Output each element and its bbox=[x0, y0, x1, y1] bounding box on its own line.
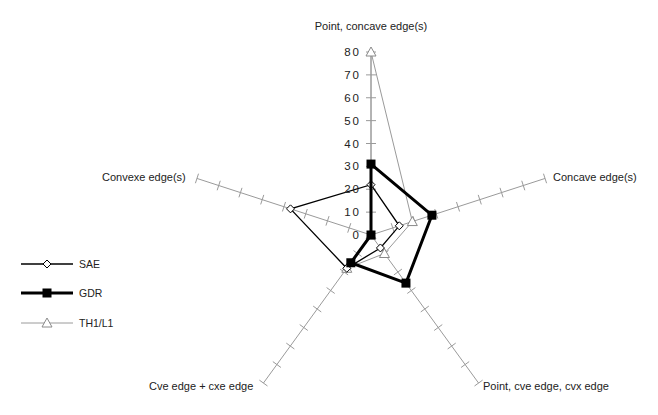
radial-tick-label: 0 bbox=[353, 229, 361, 241]
square-marker-icon bbox=[367, 231, 376, 240]
square-marker-icon bbox=[427, 211, 436, 220]
legend: SAEGDRTH1/L1 bbox=[21, 258, 114, 329]
radar-chart: 01020304050607080 Point, concave edge(s)… bbox=[0, 0, 658, 415]
legend-label: TH1/L1 bbox=[79, 317, 114, 329]
axis-tick bbox=[421, 306, 429, 312]
square-marker-icon bbox=[346, 258, 355, 267]
square-marker-icon bbox=[43, 289, 52, 298]
axis-label: Point, concave edge(s) bbox=[315, 20, 428, 32]
radial-tick-label: 20 bbox=[344, 183, 361, 195]
legend-item: GDR bbox=[21, 287, 103, 299]
axis-label: Cve edge + cxe edge bbox=[149, 380, 253, 392]
triangle-marker-icon bbox=[407, 217, 417, 226]
axis-labels: Point, concave edge(s)Concave edge(s)Poi… bbox=[102, 20, 637, 392]
axis-tick bbox=[259, 380, 267, 386]
axis-tick bbox=[434, 325, 442, 331]
legend-label: GDR bbox=[79, 287, 103, 299]
axis-label: Convexe edge(s) bbox=[102, 171, 186, 183]
axis-label: Point, cve edge, cvx edge bbox=[483, 380, 609, 392]
axis-tick bbox=[273, 362, 281, 368]
axis-tick bbox=[300, 325, 308, 331]
series bbox=[287, 47, 437, 288]
square-marker-icon bbox=[367, 160, 376, 169]
axis-tick bbox=[461, 362, 469, 368]
axis-tick bbox=[475, 380, 483, 386]
radial-tick-label: 70 bbox=[344, 69, 361, 81]
axis-tick bbox=[394, 269, 402, 275]
radial-tick-label: 60 bbox=[344, 92, 361, 104]
axis-tick bbox=[407, 288, 415, 294]
radial-tick-label: 40 bbox=[344, 138, 361, 150]
radial-tick-label: 80 bbox=[344, 46, 361, 58]
legend-label: SAE bbox=[79, 258, 100, 270]
axis-label: Concave edge(s) bbox=[553, 171, 637, 183]
legend-item: TH1/L1 bbox=[21, 317, 114, 329]
axis-tick bbox=[313, 306, 321, 312]
legend-item: SAE bbox=[21, 258, 100, 270]
radial-tick-labels: 01020304050607080 bbox=[344, 46, 361, 241]
axis-tick bbox=[327, 288, 335, 294]
radial-tick-label: 10 bbox=[344, 206, 361, 218]
axis-tick bbox=[286, 343, 294, 349]
axis-tick bbox=[448, 343, 456, 349]
diamond-marker-icon bbox=[43, 260, 51, 268]
square-marker-icon bbox=[401, 279, 410, 288]
radial-tick-label: 50 bbox=[344, 115, 361, 127]
radial-tick-label: 30 bbox=[344, 160, 361, 172]
